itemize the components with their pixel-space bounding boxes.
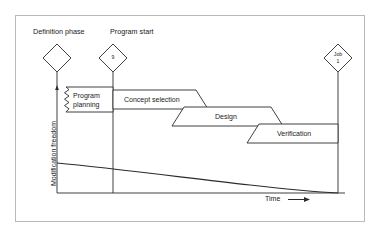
x-axis-label: Time (265, 195, 280, 202)
bar-label-program-planning-line2: planning (73, 101, 99, 108)
modification-freedom-curve (57, 163, 338, 193)
bar-label-verification: Verification (277, 130, 311, 137)
milestone-header-definition-phase: Definition phase (33, 28, 85, 35)
diamond-definition-phase (43, 44, 71, 72)
bar-program-planning (65, 87, 114, 112)
diamond-label-job-sub: 1 (329, 59, 347, 64)
bar-label-design: Design (215, 113, 237, 120)
diamond-label-program-start: 9 (104, 55, 122, 60)
bar-label-concept-selection: Concept selection (124, 96, 180, 103)
bar-label-program-planning-line1: Program (73, 92, 100, 99)
y-axis-label: Modification freedom (50, 121, 57, 186)
figure-canvas: Definition phase Program start 9 Job 1 P… (0, 0, 380, 237)
time-arrow-head (304, 197, 310, 202)
diamond-label-job: Job (329, 52, 347, 57)
milestone-header-program-start: Program start (110, 28, 154, 35)
